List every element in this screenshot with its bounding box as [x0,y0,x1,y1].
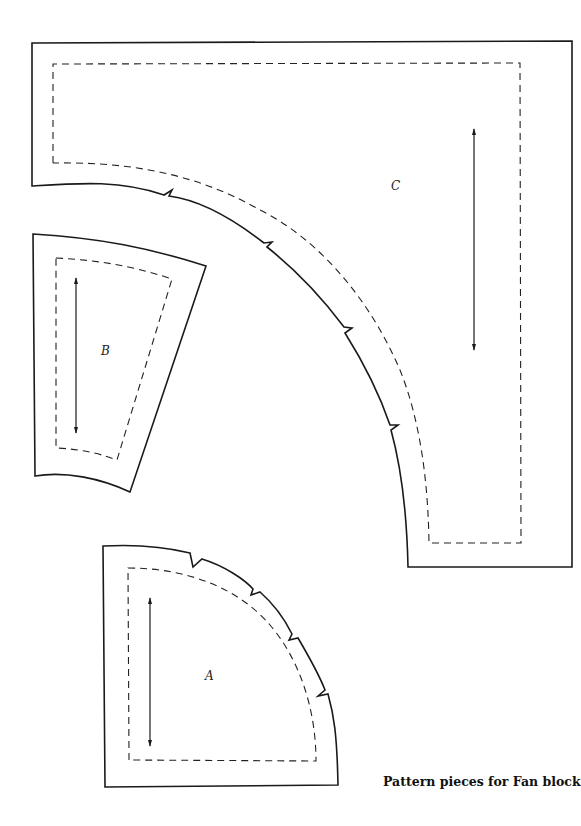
piece-a-label: A [204,669,214,683]
piece-c-seam-line [53,63,521,543]
piece-c: C [32,41,572,567]
piece-b-seam-line [56,258,172,460]
piece-a-cutting-line [103,545,338,787]
piece-a-seam-line [128,568,316,761]
piece-c-label: C [391,179,400,193]
figure-caption: Pattern pieces for Fan block [383,774,581,789]
piece-b: B [33,234,206,492]
piece-c-cutting-line [32,41,572,567]
piece-b-label: B [100,344,110,358]
piece-a: A [103,545,338,787]
